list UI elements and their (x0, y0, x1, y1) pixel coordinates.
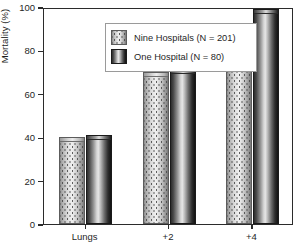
bar-lungs-series1 (59, 137, 85, 224)
x-tick-label: +4 (246, 231, 257, 242)
bar-cap (60, 138, 84, 142)
legend-swatch-one-hospital (111, 49, 127, 64)
legend-label-one-hospital: One Hospital (N = 80) (134, 52, 224, 62)
y-tick-label: 40 (24, 131, 35, 145)
bar-plus2-series2 (170, 69, 196, 224)
x-tick-label: Lungs (72, 231, 98, 242)
bar-cap (254, 10, 278, 14)
bar-plus2-series1 (143, 72, 169, 224)
bar-cap (144, 73, 168, 77)
legend-swatch-nine-hospitals (111, 30, 127, 45)
x-tick-label: +2 (163, 231, 174, 242)
legend-label-nine-hospitals: Nine Hospitals (N = 201) (134, 33, 236, 43)
legend-item: One Hospital (N = 80) (111, 47, 251, 66)
y-tick-label: 20 (24, 175, 35, 189)
y-tick-label: 60 (24, 88, 35, 102)
x-tick-mark (168, 224, 169, 229)
legend-item: Nine Hospitals (N = 201) (111, 28, 251, 47)
y-axis-label: Mortality (%) (0, 0, 10, 96)
x-tick-mark (85, 224, 86, 229)
bar-cap (87, 136, 111, 140)
mortality-bar-chart: Mortality (%) 100806040200 Nine Hospital… (0, 0, 306, 252)
chart-legend: Nine Hospitals (N = 201) One Hospital (N… (105, 23, 257, 72)
y-tick-label: 100 (19, 1, 35, 15)
plot-area: Nine Hospitals (N = 201) One Hospital (N… (43, 8, 293, 225)
y-tick-label: 0 (30, 218, 35, 232)
bar-lungs-series2 (86, 135, 112, 224)
y-tick-label: 80 (24, 44, 35, 58)
x-tick-mark (251, 224, 252, 229)
